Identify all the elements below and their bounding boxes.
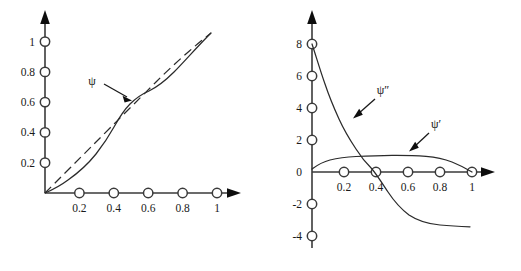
right-x-tick-labels: 0.2 0.4 0.6 0.8 1 (337, 181, 475, 193)
left-psi-pointer-line (104, 84, 127, 97)
right-psi-second-derivative-annotation: ψ″ (353, 83, 389, 119)
right-y-ticklabel-neg4: -4 (292, 230, 302, 242)
left-y-ticklabel-0p8: 0.8 (21, 66, 36, 78)
right-x-ticklabel-0p2: 0.2 (337, 181, 352, 193)
right-y-ticklabel-6: 6 (296, 70, 302, 82)
right-y-tick-labels: 8 6 4 2 0 -2 -4 (292, 38, 302, 242)
right-y-ticklabel-0: 0 (296, 166, 302, 178)
chart-panel-left: 1 0.8 0.6 0.4 0.2 0.2 0.4 0.6 0.8 1 (0, 0, 260, 271)
left-dashed-reference-curve (45, 33, 211, 193)
left-psi-pointer-arrowhead (123, 96, 132, 103)
right-x-ticklabel-1: 1 (469, 181, 475, 193)
right-y-ticklabel-2: 2 (296, 134, 302, 146)
y-axis-arrowhead (40, 10, 50, 24)
left-plot-svg: 1 0.8 0.6 0.4 0.2 0.2 0.4 0.6 0.8 1 (0, 0, 260, 271)
left-x-ticklabel-0p8: 0.8 (175, 202, 190, 214)
right-psi-second-derivative-curve (312, 44, 470, 227)
right-psi-second-derivative-label: ψ″ (377, 83, 390, 97)
right-x-ticklabel-0p8: 0.8 (433, 181, 448, 193)
left-y-ticklabel-0p2: 0.2 (21, 157, 36, 169)
right-psi-first-derivative-curve (312, 155, 472, 172)
right-x-ticklabel-0p6: 0.6 (401, 181, 416, 193)
left-y-ticklabel-1: 1 (29, 36, 35, 48)
left-psi-annotation: ψ (88, 74, 132, 103)
left-x-ticklabel-0p6: 0.6 (141, 202, 156, 214)
y-axis-arrowhead (307, 10, 317, 24)
x-axis-arrowhead (227, 188, 241, 198)
right-plot-svg: 8 6 4 2 0 -2 -4 0.2 0.4 0.6 0.8 (260, 0, 521, 271)
x-axis-arrowhead (481, 167, 495, 177)
left-x-tick-labels: 0.2 0.4 0.6 0.8 1 (72, 202, 220, 214)
right-psi-first-derivative-annotation: ψ′ (409, 117, 441, 152)
left-y-ticklabel-0p6: 0.6 (21, 96, 36, 108)
left-y-tick-labels: 1 0.8 0.6 0.4 0.2 (21, 36, 36, 169)
left-psi-curve (45, 33, 211, 193)
left-y-ticklabel-0p4: 0.4 (21, 126, 36, 138)
right-y-ticklabel-4: 4 (296, 102, 302, 114)
left-x-ticklabel-0p2: 0.2 (72, 202, 87, 214)
right-psi-first-derivative-label: ψ′ (431, 117, 442, 131)
left-x-ticklabel-0p4: 0.4 (107, 202, 122, 214)
chart-panel-right: 8 6 4 2 0 -2 -4 0.2 0.4 0.6 0.8 (260, 0, 521, 271)
left-x-ticklabel-1: 1 (214, 202, 220, 214)
left-psi-label: ψ (88, 74, 96, 88)
right-y-ticklabel-8: 8 (296, 38, 302, 50)
right-y-ticklabel-neg2: -2 (292, 198, 302, 210)
figure-container: 1 0.8 0.6 0.4 0.2 0.2 0.4 0.6 0.8 1 (0, 0, 521, 271)
